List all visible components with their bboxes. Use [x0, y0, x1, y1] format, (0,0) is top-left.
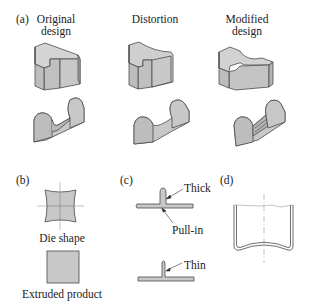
drawn-cup: [234, 194, 293, 263]
thick-t-section: [136, 188, 193, 208]
original-saddle-block: [34, 98, 84, 142]
distortion-saddle-block: [134, 100, 189, 144]
modified-saddle-block: [234, 100, 285, 146]
modified-block: [219, 47, 273, 90]
diagram-drawing: [0, 0, 312, 302]
die-shape: [37, 182, 84, 230]
distortion-t-block: [129, 42, 173, 89]
original-t-block: [35, 43, 80, 90]
extruded-product-square: [47, 251, 79, 283]
